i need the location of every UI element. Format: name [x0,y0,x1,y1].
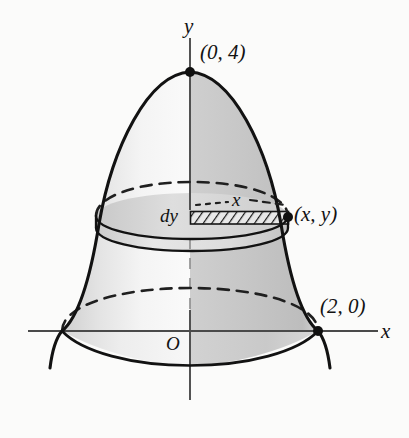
y-axis-label: y [184,16,193,37]
point-label-disk-edge: (x, y) [294,204,337,225]
solid-of-revolution-figure: y x O (0, 4) (2, 0) (x, y) x dy [0,0,409,438]
x-axis-label: x [381,321,390,342]
radius-label: x [232,190,240,209]
point-x-intercept-dot [313,326,323,336]
point-apex-dot [185,67,195,77]
cross-section-strip [191,212,289,225]
point-label-apex: (0, 4) [200,42,246,63]
figure-canvas [0,0,409,438]
point-disk-edge-dot [283,212,293,222]
origin-label: O [166,334,180,353]
point-label-x-intercept: (2, 0) [320,296,366,317]
thickness-label: dy [160,206,178,225]
